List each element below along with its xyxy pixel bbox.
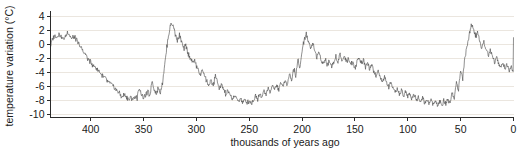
x-tick-label: 250 xyxy=(240,123,258,135)
x-tick-label: 200 xyxy=(293,123,311,135)
y-tick-layer: 420-2-4-6-8-10 xyxy=(29,10,50,120)
x-tick-label: 50 xyxy=(455,123,467,135)
x-axis-title: thousands of years ago xyxy=(230,136,339,148)
y-tick-label: 4 xyxy=(39,10,45,22)
temperature-variation-chart: 420-2-4-6-8-10 400350300250200150100500 … xyxy=(0,0,532,152)
x-tick-label: 100 xyxy=(399,123,417,135)
y-axis-title: temperature variation (°C) xyxy=(3,6,15,127)
x-tick-label: 350 xyxy=(135,123,153,135)
y-tick-label: -8 xyxy=(35,94,44,106)
x-tick-label: 400 xyxy=(82,123,100,135)
series-temperature-variation xyxy=(51,23,514,107)
y-tick-label: -6 xyxy=(35,80,44,92)
y-tick-label: 0 xyxy=(39,38,45,50)
x-tick-label: 0 xyxy=(511,123,517,135)
y-tick-label: 2 xyxy=(39,24,45,36)
data-series-layer xyxy=(51,23,514,107)
chart-canvas: 420-2-4-6-8-10 400350300250200150100500 … xyxy=(0,0,532,152)
x-tick-layer: 400350300250200150100500 xyxy=(82,118,517,135)
y-tick-label: -4 xyxy=(35,66,44,78)
y-tick-label: -10 xyxy=(29,108,44,120)
x-tick-label: 300 xyxy=(188,123,206,135)
x-tick-label: 150 xyxy=(346,123,364,135)
y-tick-label: -2 xyxy=(35,52,44,64)
